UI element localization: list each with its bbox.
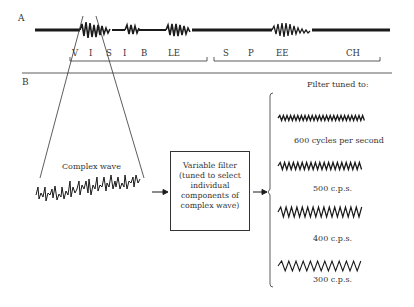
output-label-300: 300 c.p.s. (313, 275, 352, 284)
output-brace (268, 93, 273, 287)
segment-label: S (106, 48, 112, 58)
output-label-600: 600 cycles per second (294, 136, 384, 145)
filter-line: individual (171, 181, 249, 191)
filter-tuned-label: Filter tuned to: (307, 80, 369, 89)
segment-label: S (223, 48, 229, 58)
variable-filter-box: Variable filter (tuned to select individ… (170, 151, 250, 231)
segment-label: P (248, 48, 254, 58)
complex-wave-label: Complex wave (62, 162, 121, 171)
output-label-400: 400 c.p.s. (313, 234, 352, 243)
output-label-500: 500 c.p.s. (313, 184, 352, 193)
segment-label: I (89, 48, 92, 58)
segment-label: I (123, 48, 126, 58)
segment-label: V (72, 48, 78, 58)
segment-label: EE (276, 48, 288, 58)
filter-line: components of (171, 191, 249, 201)
zoom-lines (40, 16, 144, 178)
segment-label: CH (346, 48, 360, 58)
speech-waveform (35, 22, 390, 38)
panel-a-label: A (18, 13, 25, 23)
filter-line: Variable filter (171, 161, 249, 171)
panel-b-label: B (22, 77, 29, 87)
filter-line: (tuned to select (171, 171, 249, 181)
segment-label: LE (168, 48, 180, 58)
complex-wave (36, 175, 140, 201)
filter-line: complex wave) (171, 201, 249, 211)
segment-label: B (141, 48, 147, 58)
